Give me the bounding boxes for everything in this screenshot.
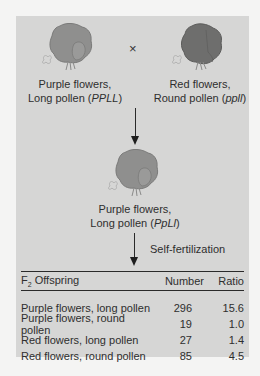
parent-right-line2-prefix: Round pollen ( bbox=[154, 92, 226, 104]
f1-genotype: PpLl bbox=[154, 217, 176, 229]
parent-right-genotype: ppll bbox=[225, 92, 242, 104]
self-fertilization-label: Self-fertilization bbox=[150, 243, 225, 255]
parent-right-line2-suffix: ) bbox=[243, 92, 247, 104]
ratio-cell: 1.4 bbox=[204, 334, 244, 346]
number-cell: 85 bbox=[154, 350, 204, 362]
f1-purple-flower-icon bbox=[104, 148, 166, 198]
parent-left-line2-suffix: ) bbox=[118, 92, 122, 104]
phenotype-cell: Red flowers, long pollen bbox=[21, 334, 154, 346]
ratio-cell: 15.6 bbox=[204, 302, 244, 314]
table-row: Purple flowers, round pollen 19 1.0 bbox=[21, 316, 244, 332]
cross-symbol: × bbox=[129, 41, 137, 56]
parent-left-genotype: PPLL bbox=[92, 92, 119, 104]
f1-line1: Purple flowers, bbox=[82, 202, 188, 216]
f1-line2-prefix: Long pollen ( bbox=[90, 217, 154, 229]
phenotype-cell: Purple flowers, round pollen bbox=[21, 312, 154, 336]
arrow-down-icon bbox=[130, 257, 138, 266]
f1-line2-suffix: ) bbox=[176, 217, 180, 229]
table-row: Red flowers, long pollen 27 1.4 bbox=[21, 332, 244, 348]
header-number: Number bbox=[154, 275, 204, 287]
parent-left-label: Purple flowers, Long pollen (PPLL) bbox=[22, 77, 128, 105]
parent-left-line2: Long pollen (PPLL) bbox=[22, 91, 128, 105]
table-header: F2 Offspring Number Ratio bbox=[21, 272, 244, 290]
ratio-cell: 1.0 bbox=[204, 318, 244, 330]
table-row: Red flowers, round pollen 85 4.5 bbox=[21, 348, 244, 364]
f2-offspring-table: F2 Offspring Number Ratio Purple flowers… bbox=[21, 271, 244, 364]
header-ratio: Ratio bbox=[204, 275, 244, 287]
number-cell: 296 bbox=[154, 302, 204, 314]
number-cell: 19 bbox=[154, 318, 204, 330]
header-offspring: F2 Offspring bbox=[21, 274, 154, 288]
parent-left-line2-prefix: Long pollen ( bbox=[28, 92, 92, 104]
cross-arrow-line bbox=[135, 108, 136, 138]
f1-line2: Long pollen (PpLl) bbox=[82, 216, 188, 230]
header-offspring-text: Offspring bbox=[32, 274, 80, 286]
phenotype-cell: Red flowers, round pollen bbox=[21, 350, 154, 362]
parent-right-line2: Round pollen (ppll) bbox=[150, 91, 250, 105]
parent-right-label: Red flowers, Round pollen (ppll) bbox=[150, 77, 250, 105]
ratio-cell: 4.5 bbox=[204, 350, 244, 362]
number-cell: 27 bbox=[154, 334, 204, 346]
parent-right-line1: Red flowers, bbox=[150, 77, 250, 91]
parent-left-line1: Purple flowers, bbox=[22, 77, 128, 91]
header-f: F bbox=[21, 274, 28, 286]
self-fertilization-arrow-line bbox=[134, 233, 135, 260]
purple-flower-icon bbox=[38, 22, 100, 72]
red-flower-icon bbox=[168, 22, 230, 72]
f1-label: Purple flowers, Long pollen (PpLl) bbox=[82, 202, 188, 230]
arrow-down-icon bbox=[131, 136, 139, 145]
